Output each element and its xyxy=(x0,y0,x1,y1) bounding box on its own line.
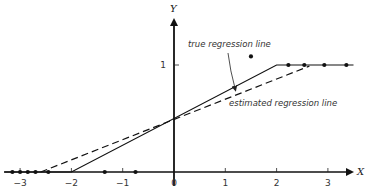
data-point xyxy=(322,63,326,67)
annotation-estimated-regression-line: estimated regression line xyxy=(229,98,337,108)
annotation-true-regression-line: true regression line xyxy=(188,39,271,49)
x-tick-label: 2 xyxy=(274,178,280,188)
x-tick-label: −2 xyxy=(65,178,78,188)
data-point xyxy=(33,170,37,174)
labels-layer: X Y true regression line estimated regre… xyxy=(170,3,365,177)
series-layer xyxy=(5,65,354,172)
data-point xyxy=(133,170,137,174)
x-tick-label: −1 xyxy=(116,178,129,188)
x-tick-label: 1 xyxy=(222,178,228,188)
data-point xyxy=(46,170,50,174)
x-axis-title: X xyxy=(356,166,365,177)
data-point xyxy=(26,170,30,174)
annotation-arrow xyxy=(228,53,236,91)
data-point xyxy=(286,63,290,67)
true-regression-line xyxy=(5,65,354,172)
chart: −3−2−101231 X Y true regression line est… xyxy=(0,0,365,190)
data-point xyxy=(302,63,306,67)
x-tick-label: −3 xyxy=(13,178,26,188)
data-point xyxy=(18,170,22,174)
data-point xyxy=(344,63,348,67)
estimated-regression-line xyxy=(41,66,310,172)
data-point xyxy=(249,54,253,58)
x-tick-label: 0 xyxy=(171,178,177,188)
y-tick-label: 1 xyxy=(160,60,166,70)
points-layer xyxy=(10,54,348,174)
y-axis-title: Y xyxy=(170,3,178,14)
data-point xyxy=(10,170,14,174)
x-tick-label: 3 xyxy=(325,178,331,188)
data-point xyxy=(103,170,107,174)
